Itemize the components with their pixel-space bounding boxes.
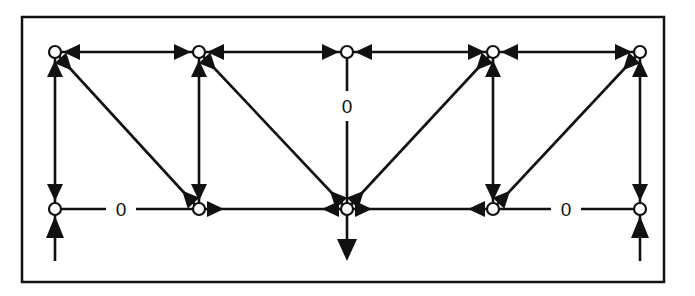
zero-force-label: 0 <box>561 199 572 220</box>
reaction-arrow-up-icon <box>631 216 649 238</box>
truss-node-b5 <box>634 203 646 215</box>
truss-node-t1 <box>49 46 61 58</box>
truss-node-b1 <box>49 203 61 215</box>
truss-diagram-canvas: 000 <box>0 0 695 296</box>
member-diag-3 <box>347 52 493 209</box>
truss-node-t4 <box>487 46 499 58</box>
tension-arrow-icon <box>468 201 485 217</box>
zero-force-label: 0 <box>116 199 127 220</box>
compression-arrow-icon <box>632 184 648 201</box>
truss-node-b3 <box>341 203 353 215</box>
compression-arrow-icon <box>501 44 518 60</box>
truss-diagram: 000 <box>0 0 695 296</box>
truss-node-t5 <box>634 46 646 58</box>
load-arrow-down-icon <box>337 239 357 261</box>
truss-node-t2 <box>193 46 205 58</box>
member-diag-1 <box>55 52 199 209</box>
member-diag-2 <box>199 52 347 209</box>
truss-members <box>55 52 640 209</box>
member-diag-4 <box>493 52 640 209</box>
external-loads <box>46 215 649 261</box>
truss-node-b4 <box>487 203 499 215</box>
compression-arrow-icon <box>47 184 63 201</box>
tension-arrow-icon <box>207 201 224 217</box>
compression-arrow-icon <box>174 44 191 60</box>
truss-node-t3 <box>341 46 353 58</box>
zero-force-label: 0 <box>342 96 353 117</box>
compression-arrow-icon <box>322 44 339 60</box>
reaction-arrow-up-icon <box>46 216 64 238</box>
compression-arrow-icon <box>355 44 372 60</box>
truss-node-b2 <box>193 203 205 215</box>
